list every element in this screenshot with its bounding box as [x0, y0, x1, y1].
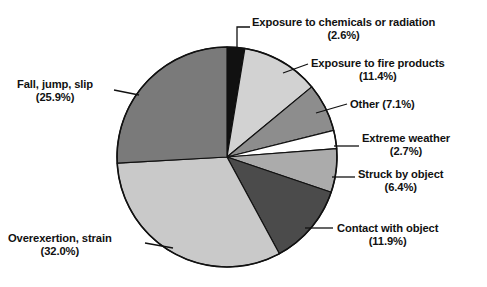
slice-label-fire-products-value: (11.4%)	[311, 70, 445, 83]
slice-label-fall-jump-slip-name: Fall, jump, slip	[17, 78, 93, 91]
slice-label-chemicals-name: Exposure to chemicals or radiation	[252, 16, 435, 29]
slice-label-chemicals-value: (2.6%)	[252, 29, 435, 42]
pie-slice-group	[117, 47, 337, 267]
slice-label-overexertion-strain-value: (32.0%)	[8, 245, 112, 258]
slice-label-contact-with-object: Contact with object (11.9%)	[337, 222, 438, 248]
slice-label-overexertion-strain: Overexertion, strain (32.0%)	[8, 232, 112, 258]
slice-label-struck-by-object: Struck by object (6.4%)	[358, 168, 443, 194]
slice-label-chemicals: Exposure to chemicals or radiation (2.6%…	[252, 16, 435, 42]
slice-label-overexertion-strain-name: Overexertion, strain	[8, 232, 112, 245]
slice-label-fall-jump-slip-value: (25.9%)	[17, 91, 93, 104]
leader-line-fall	[114, 90, 139, 95]
leader-line-chemicals	[237, 27, 250, 49]
slice-label-other: Other (7.1%)	[350, 98, 415, 111]
slice-label-fire-products: Exposure to fire products (11.4%)	[311, 57, 445, 83]
slice-label-fire-products-name: Exposure to fire products	[311, 57, 445, 70]
slice-label-struck-by-object-name: Struck by object	[358, 168, 443, 181]
pie-slice	[117, 47, 227, 163]
slice-label-struck-by-object-value: (6.4%)	[358, 181, 443, 194]
slice-label-contact-with-object-value: (11.9%)	[337, 235, 438, 248]
slice-label-extreme-weather-value: (2.7%)	[362, 145, 450, 158]
slice-label-extreme-weather-name: Extreme weather	[362, 132, 450, 145]
slice-label-other-name: Other (7.1%)	[350, 98, 415, 111]
slice-label-fall-jump-slip: Fall, jump, slip (25.9%)	[17, 78, 93, 104]
pie-chart-figure: Exposure to chemicals or radiation (2.6%…	[0, 0, 487, 287]
slice-label-extreme-weather: Extreme weather (2.7%)	[362, 132, 450, 158]
slice-label-contact-with-object-name: Contact with object	[337, 222, 438, 235]
